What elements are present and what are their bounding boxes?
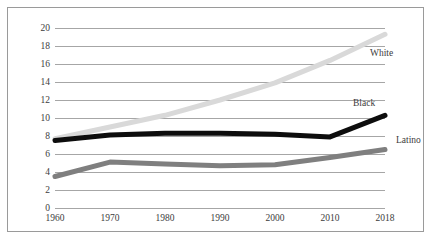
series-label-latino: Latino — [396, 135, 421, 145]
x-tick-label: 1960 — [46, 213, 65, 223]
y-tick-label: 12 — [41, 95, 51, 105]
y-tick-label: 14 — [41, 77, 51, 87]
x-tick-label: 2018 — [376, 213, 395, 223]
y-tick-label: 10 — [41, 113, 51, 123]
x-tick-label: 1970 — [101, 213, 120, 223]
x-tick-label: 2000 — [266, 213, 285, 223]
y-tick-label: 18 — [41, 41, 51, 51]
series-label-white: White — [370, 48, 393, 58]
gridline — [55, 208, 385, 209]
plot-area — [55, 28, 385, 208]
y-tick-label: 8 — [45, 131, 50, 141]
data-series-lines — [55, 28, 385, 208]
x-tick-label: 2010 — [321, 213, 340, 223]
figure-frame: 20 18 16 14 12 10 8 6 4 2 0 — [7, 7, 424, 232]
y-tick-label: 20 — [41, 23, 51, 33]
series-line-white — [55, 34, 385, 138]
y-tick-label: 16 — [41, 59, 51, 69]
y-tick-label: 0 — [45, 203, 50, 213]
y-tick-label: 6 — [45, 149, 50, 159]
x-axis-tick-labels: 1960 1970 1980 1990 2000 2010 2018 — [55, 213, 385, 227]
y-tick-label: 2 — [45, 185, 50, 195]
x-tick-label: 1990 — [211, 213, 230, 223]
y-tick-label: 4 — [45, 167, 50, 177]
chart-figure: 20 18 16 14 12 10 8 6 4 2 0 — [0, 0, 436, 244]
x-tick-label: 1980 — [156, 213, 175, 223]
y-axis-tick-labels: 20 18 16 14 12 10 8 6 4 2 0 — [28, 28, 50, 208]
series-label-black: Black — [353, 98, 375, 108]
series-line-latino — [55, 150, 385, 177]
